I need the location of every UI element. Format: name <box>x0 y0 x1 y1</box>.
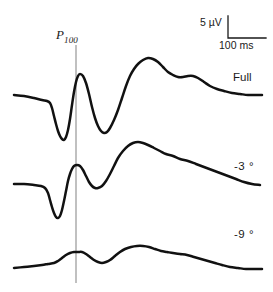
scale-bar <box>228 16 266 38</box>
p100-annotation: P100 <box>56 28 78 45</box>
waveform-trace-minus9 <box>14 246 262 269</box>
scale-bar-time-label: 100 ms <box>219 40 253 51</box>
waveform-trace-minus3 <box>14 142 260 218</box>
trace-group <box>14 58 262 269</box>
waveform-trace-full <box>14 58 262 140</box>
trace-label-minus9: -9 ° <box>234 229 254 241</box>
scale-bar-amplitude-label: 5 µV <box>200 17 222 28</box>
p100-subscript: 100 <box>64 35 78 45</box>
p100-letter: P <box>56 27 64 42</box>
vep-waveform-figure: P100 5 µV 100 ms Full -3 ° -9 ° <box>0 0 273 292</box>
scale-bar-path <box>228 16 266 38</box>
trace-label-full: Full <box>233 72 252 84</box>
trace-label-minus3: -3 ° <box>234 161 254 173</box>
